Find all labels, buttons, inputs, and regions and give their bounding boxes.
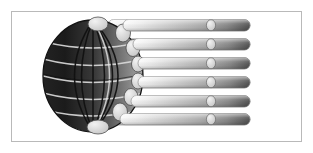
bar-4-marker: [206, 77, 215, 88]
bar-3-marker: [206, 58, 215, 69]
bar-5-marker: [206, 96, 215, 107]
bar-2-front-shade: [133, 39, 250, 51]
bar-2-marker: [206, 39, 215, 50]
bar-4-front-shade: [138, 77, 250, 89]
bar-1-front-shade: [123, 20, 250, 32]
illustration-stage: A dark wireframe globe on a white framed…: [0, 0, 313, 153]
bar-3-front-shade: [138, 58, 250, 70]
bar-6-marker: [206, 114, 215, 125]
north-pole-node: [88, 17, 108, 31]
globe-bars-illustration: [0, 0, 313, 153]
bar-6-front-shade: [120, 114, 250, 126]
bar-5-front-shade: [131, 96, 250, 108]
south-pole-node: [87, 120, 109, 134]
bar-1-marker: [206, 20, 215, 31]
